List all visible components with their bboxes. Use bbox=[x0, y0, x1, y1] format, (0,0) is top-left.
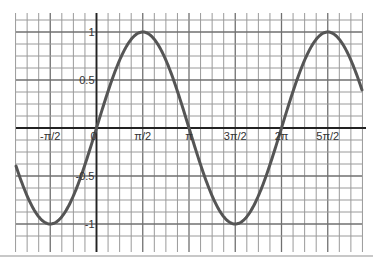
y-tick-label: 0.5 bbox=[79, 74, 94, 86]
x-tick-label: π bbox=[185, 130, 193, 142]
x-tick-label: 2π bbox=[275, 130, 289, 142]
y-tick-label: -1 bbox=[85, 218, 95, 230]
sine-chart: -π/20π/2π3π/22π5π/2 10.5-0.5-1 bbox=[0, 0, 373, 257]
x-tick-label: π/2 bbox=[134, 130, 151, 142]
x-tick-label: -π/2 bbox=[40, 130, 60, 142]
x-tick-label: 3π/2 bbox=[224, 130, 247, 142]
y-tick-label: -0.5 bbox=[76, 170, 95, 182]
y-tick-label: 1 bbox=[88, 26, 94, 38]
x-tick-label: 5π/2 bbox=[316, 130, 339, 142]
x-tick-label: 0 bbox=[90, 130, 96, 142]
